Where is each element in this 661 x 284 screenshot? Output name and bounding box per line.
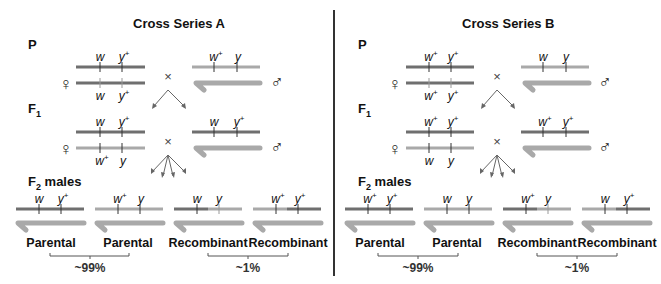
generation-f2-label: F2 males	[28, 174, 81, 192]
parental-percentage: ~99%	[74, 261, 105, 275]
allele-label: w	[96, 88, 105, 103]
allele-label: y+	[448, 88, 459, 103]
panel-title: Cross Series A	[133, 16, 225, 31]
male-symbol-icon: ♂	[270, 138, 284, 156]
allele-label: y	[545, 191, 551, 206]
panel-title: Cross Series B	[462, 16, 555, 31]
male-symbol-icon: ♂	[598, 73, 612, 91]
generation-f1-label: F1	[358, 101, 371, 119]
allele-label: y+	[234, 114, 245, 129]
allele-label: y+	[295, 191, 306, 206]
cross-symbol-icon: ×	[493, 69, 501, 84]
recombinant-bracket	[208, 253, 288, 256]
allele-label: w+	[424, 49, 437, 64]
cross-symbol-icon: ×	[493, 134, 501, 149]
f2-class-label: Parental	[355, 236, 404, 250]
f2-class-label: Recombinant	[248, 236, 327, 250]
allele-label: w	[539, 49, 548, 64]
allele-label: w+	[424, 88, 437, 103]
allele-label: y	[466, 191, 472, 206]
chromosome-y	[196, 83, 260, 90]
female-symbol-icon: ♀	[388, 75, 402, 93]
allele-label: y+	[448, 49, 459, 64]
cross-symbol-icon: ×	[164, 69, 172, 84]
allele-label: w	[193, 191, 202, 206]
recombinant-percentage: ~1%	[236, 261, 260, 275]
f2-class-label: Recombinant	[497, 236, 576, 250]
allele-label: w	[96, 114, 105, 129]
allele-label: w	[601, 191, 610, 206]
allele-label: y	[138, 191, 144, 206]
generation-f2-label: F2 males	[358, 174, 411, 192]
allele-label: w	[425, 153, 434, 168]
allele-label: y+	[624, 191, 635, 206]
allele-label: w+	[271, 191, 284, 206]
allele-label: y	[563, 49, 569, 64]
parental-percentage: ~99%	[402, 261, 433, 275]
allele-label: w	[210, 114, 219, 129]
allele-label: w	[35, 191, 44, 206]
allele-label: y	[448, 153, 454, 168]
f2-class-label: Parental	[103, 236, 152, 250]
allele-label: y+	[58, 191, 69, 206]
allele-label: w+	[95, 153, 108, 168]
female-symbol-icon: ♀	[388, 140, 402, 158]
female-symbol-icon: ♀	[59, 75, 73, 93]
recombinant-percentage: ~1%	[565, 261, 589, 275]
allele-label: y+	[387, 191, 398, 206]
male-symbol-icon: ♂	[270, 73, 284, 91]
female-symbol-icon: ♀	[59, 140, 73, 158]
allele-label: w+	[521, 191, 534, 206]
allele-label: w	[96, 49, 105, 64]
allele-label: w	[443, 191, 452, 206]
f2-class-label: Recombinant	[168, 236, 247, 250]
allele-label: y+	[563, 114, 574, 129]
allele-label: y+	[119, 114, 130, 129]
allele-label: y+	[448, 114, 459, 129]
allele-label: y	[216, 191, 222, 206]
allele-label: y+	[119, 49, 130, 64]
allele-label: w+	[424, 114, 437, 129]
f2-class-label: Parental	[26, 236, 75, 250]
generation-p-label: P	[358, 37, 367, 52]
allele-label: w+	[209, 49, 222, 64]
allele-label: w+	[363, 191, 376, 206]
allele-label: w+	[113, 191, 126, 206]
allele-label: y	[235, 49, 241, 64]
allele-label: y+	[119, 88, 130, 103]
generation-p-label: P	[28, 37, 37, 52]
cross-symbol-icon: ×	[164, 134, 172, 149]
f2-class-label: Recombinant	[577, 236, 656, 250]
generation-f1-label: F1	[28, 101, 41, 119]
allele-label: w+	[538, 114, 551, 129]
parental-bracket	[50, 253, 129, 256]
male-symbol-icon: ♂	[598, 138, 612, 156]
allele-label: y	[120, 153, 126, 168]
f2-class-label: Parental	[432, 236, 481, 250]
